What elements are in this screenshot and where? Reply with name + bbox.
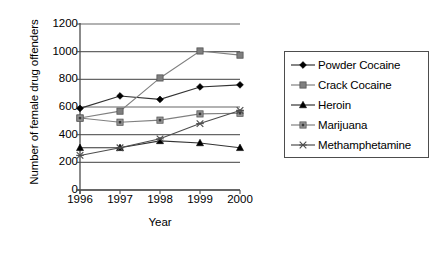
marker-square-dot-center	[119, 121, 122, 124]
marker-square	[237, 52, 243, 58]
marker-asterisk	[299, 142, 307, 149]
legend-marker-square	[290, 77, 316, 93]
legend-label: Marijuana	[316, 119, 367, 131]
marker-square	[197, 48, 203, 54]
marker-square-dot-center	[302, 124, 305, 127]
marker-diamond	[157, 96, 164, 103]
marker-square	[157, 75, 163, 81]
x-tick-label: 1999	[180, 193, 220, 205]
legend-label: Methamphetamine	[316, 139, 411, 151]
legend-item[interactable]: Marijuana	[285, 115, 428, 135]
marker-square	[117, 108, 123, 114]
marker-diamond	[117, 93, 124, 100]
legend-label: Crack Cocaine	[316, 79, 391, 91]
legend-item[interactable]: Methamphetamine	[285, 135, 428, 155]
legend-item[interactable]: Crack Cocaine	[285, 75, 428, 95]
marker-diamond	[237, 81, 244, 88]
marker-diamond	[197, 84, 204, 91]
x-axis-title: Year	[80, 216, 240, 228]
x-tick-label: 1998	[140, 193, 180, 205]
marker-square-dot-center	[79, 117, 82, 120]
marker-square	[300, 82, 306, 88]
legend-marker-diamond	[290, 57, 316, 73]
series-crack-cocaine	[77, 48, 243, 121]
marker-square-dot-center	[239, 112, 242, 115]
x-axis-tick-labels: 19961997199819992000	[80, 193, 242, 209]
legend-label: Heroin	[316, 99, 351, 111]
legend-item[interactable]: Heroin	[285, 95, 428, 115]
x-tick-label: 1997	[100, 193, 140, 205]
marker-square-dot-center	[159, 119, 162, 122]
line-chart: Number of female drug offenders 02004006…	[0, 0, 442, 258]
legend-marker-triangle	[290, 97, 316, 113]
x-tick-label: 1996	[60, 193, 100, 205]
marker-asterisk	[196, 120, 204, 127]
x-tick-label: 2000	[220, 193, 260, 205]
marker-diamond	[77, 105, 84, 112]
legend-item[interactable]: Powder Cocaine	[285, 55, 428, 75]
legend-marker-square-dot	[290, 117, 316, 133]
chart-legend: Powder CocaineCrack CocaineHeroinMarijua…	[284, 51, 429, 158]
marker-square-dot-center	[199, 113, 202, 116]
legend-label: Powder Cocaine	[316, 59, 400, 71]
marker-diamond	[300, 62, 307, 69]
series-line	[80, 51, 240, 118]
legend-marker-asterisk	[290, 137, 316, 153]
